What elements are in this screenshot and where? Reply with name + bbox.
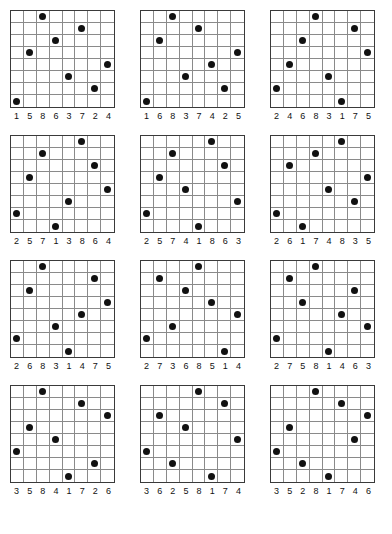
board-cell[interactable] [154, 11, 167, 23]
board-cell[interactable] [361, 470, 374, 482]
board-cell[interactable] [231, 160, 244, 172]
board-cell[interactable] [37, 398, 50, 410]
board-cell[interactable] [205, 59, 218, 71]
board-cell[interactable] [75, 333, 88, 345]
board-cell[interactable] [297, 470, 310, 482]
board-cell[interactable] [167, 410, 180, 422]
board-cell[interactable] [284, 23, 297, 35]
board-cell[interactable] [284, 136, 297, 148]
board-cell[interactable] [218, 297, 231, 309]
board-cell[interactable] [271, 47, 284, 59]
board-cell[interactable] [24, 184, 37, 196]
board-cell[interactable] [205, 71, 218, 83]
board-cell[interactable] [141, 273, 154, 285]
board-cell[interactable] [154, 446, 167, 458]
board-cell[interactable] [193, 196, 206, 208]
board-cell[interactable] [310, 261, 323, 273]
board-cell[interactable] [193, 11, 206, 23]
board-cell[interactable] [24, 83, 37, 95]
board-cell[interactable] [63, 470, 76, 482]
board-cell[interactable] [63, 297, 76, 309]
board-cell[interactable] [361, 47, 374, 59]
board-cell[interactable] [101, 345, 114, 357]
board-cell[interactable] [50, 285, 63, 297]
board-cell[interactable] [271, 71, 284, 83]
board-cell[interactable] [193, 172, 206, 184]
board-cell[interactable] [11, 136, 24, 148]
board-cell[interactable] [193, 333, 206, 345]
board-cell[interactable] [180, 136, 193, 148]
board-cell[interactable] [231, 321, 244, 333]
board-cell[interactable] [348, 434, 361, 446]
board-cell[interactable] [348, 160, 361, 172]
board-cell[interactable] [63, 47, 76, 59]
board-cell[interactable] [167, 95, 180, 107]
board-cell[interactable] [167, 71, 180, 83]
board-cell[interactable] [297, 321, 310, 333]
board-cell[interactable] [205, 458, 218, 470]
board-cell[interactable] [218, 11, 231, 23]
board-cell[interactable] [361, 71, 374, 83]
board-cell[interactable] [231, 410, 244, 422]
board-cell[interactable] [310, 59, 323, 71]
board-cell[interactable] [205, 261, 218, 273]
board-cell[interactable] [141, 95, 154, 107]
board-cell[interactable] [11, 386, 24, 398]
board-cell[interactable] [154, 410, 167, 422]
board-cell[interactable] [24, 11, 37, 23]
board-cell[interactable] [218, 148, 231, 160]
board-cell[interactable] [361, 398, 374, 410]
board-cell[interactable] [11, 184, 24, 196]
board-cell[interactable] [218, 23, 231, 35]
board-cell[interactable] [101, 196, 114, 208]
board-cell[interactable] [37, 434, 50, 446]
board-cell[interactable] [361, 172, 374, 184]
board-cell[interactable] [141, 160, 154, 172]
board-cell[interactable] [50, 261, 63, 273]
board-cell[interactable] [335, 422, 348, 434]
board-cell[interactable] [310, 422, 323, 434]
board-cell[interactable] [323, 273, 336, 285]
board-cell[interactable] [348, 71, 361, 83]
board-cell[interactable] [63, 458, 76, 470]
board-cell[interactable] [50, 333, 63, 345]
board-cell[interactable] [167, 345, 180, 357]
board-cell[interactable] [75, 261, 88, 273]
board-cell[interactable] [37, 422, 50, 434]
board-cell[interactable] [284, 172, 297, 184]
board-cell[interactable] [141, 297, 154, 309]
board-cell[interactable] [11, 458, 24, 470]
board-cell[interactable] [310, 273, 323, 285]
board-cell[interactable] [37, 95, 50, 107]
board-cell[interactable] [335, 297, 348, 309]
board-cell[interactable] [154, 297, 167, 309]
board-cell[interactable] [323, 136, 336, 148]
board-cell[interactable] [11, 23, 24, 35]
board-cell[interactable] [24, 23, 37, 35]
board-cell[interactable] [11, 273, 24, 285]
board-cell[interactable] [63, 148, 76, 160]
board-cell[interactable] [297, 345, 310, 357]
puzzle-board[interactable] [10, 135, 115, 233]
board-cell[interactable] [284, 220, 297, 232]
board-cell[interactable] [310, 35, 323, 47]
board-cell[interactable] [75, 71, 88, 83]
board-cell[interactable] [11, 345, 24, 357]
board-cell[interactable] [167, 23, 180, 35]
board-cell[interactable] [335, 273, 348, 285]
board-cell[interactable] [218, 83, 231, 95]
board-cell[interactable] [218, 398, 231, 410]
board-cell[interactable] [88, 422, 101, 434]
board-cell[interactable] [50, 422, 63, 434]
board-cell[interactable] [141, 172, 154, 184]
board-cell[interactable] [24, 59, 37, 71]
board-cell[interactable] [193, 273, 206, 285]
board-cell[interactable] [297, 333, 310, 345]
board-cell[interactable] [75, 345, 88, 357]
board-cell[interactable] [180, 83, 193, 95]
board-cell[interactable] [335, 196, 348, 208]
board-cell[interactable] [297, 446, 310, 458]
board-cell[interactable] [271, 220, 284, 232]
board-cell[interactable] [63, 172, 76, 184]
board-cell[interactable] [180, 398, 193, 410]
